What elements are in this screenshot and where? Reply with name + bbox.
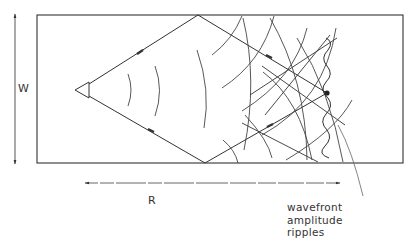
source-wavefronts (128, 50, 206, 128)
channel-boundary (37, 15, 403, 163)
width-label: W (18, 82, 29, 95)
callout-line-3: ripples (287, 226, 343, 239)
callout-line-1: wavefront (287, 201, 343, 214)
waveguide-diagram (0, 0, 414, 240)
source-triangle-icon (75, 82, 89, 98)
wavefront-ripples-callout: wavefront amplitude ripples (287, 201, 343, 239)
callout-leader-line (338, 125, 363, 196)
range-label: R (148, 194, 156, 207)
upper-image-wavefronts (212, 16, 352, 160)
ray-paths (89, 15, 327, 163)
callout-line-2: amplitude (287, 214, 343, 227)
lower-image-wavefronts (223, 18, 343, 163)
